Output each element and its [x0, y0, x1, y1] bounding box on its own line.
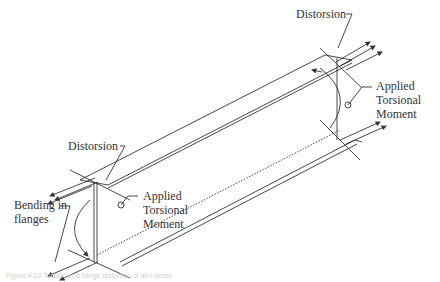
- label-torsion-right-1: Applied: [376, 80, 415, 93]
- label-bending-1: Bending in: [14, 199, 67, 212]
- label-torsion-right-3: Moment: [376, 108, 417, 121]
- label-torsion-right-2: Torsional: [376, 94, 421, 107]
- label-distorsion-left: Distorsion: [68, 140, 118, 153]
- figure-caption: Figure 4.10 Torsion and flange distortio…: [6, 272, 172, 279]
- label-torsion-left-1: Applied: [143, 190, 182, 203]
- i-beam-drawing: [0, 0, 440, 282]
- label-torsion-left-3: Moment: [143, 218, 184, 231]
- label-torsion-left-2: Torsional: [143, 204, 188, 217]
- diagram-canvas: Distorsion Applied Torsional Moment Dist…: [0, 0, 440, 282]
- web: [94, 58, 340, 262]
- label-distorsion-right: Distorsion: [296, 8, 346, 21]
- label-bending-2: flanges: [14, 213, 49, 226]
